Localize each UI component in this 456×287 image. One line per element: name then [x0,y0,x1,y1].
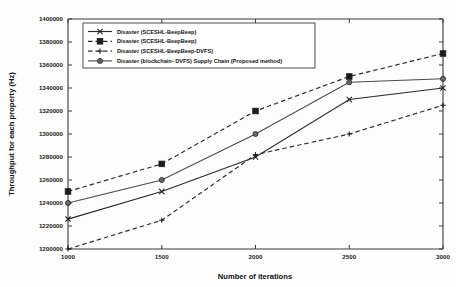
data-point-marker [441,76,446,81]
series-1 [65,51,446,195]
data-point-marker [98,58,103,63]
legend-item-label: Disaster (SCESHL-BeepBeep-DVFS) [117,48,213,54]
x-tick-label: 2500 [342,253,356,260]
throughput-line-chart: 1200000122000012400001260000128000013000… [0,0,456,287]
y-tick-label: 1400000 [39,15,64,22]
data-point-marker [253,132,258,137]
y-tick-label: 1320000 [39,107,64,114]
series-3 [66,76,446,205]
y-tick-label: 1260000 [39,176,64,183]
data-point-marker [253,108,259,114]
series-layer [65,51,446,252]
data-point-marker [159,178,164,183]
y-tick-label: 1340000 [39,84,64,91]
data-point-marker [97,39,103,45]
y-tick-label: 1380000 [39,38,64,45]
y-tick-label: 1300000 [39,130,64,137]
data-point-marker [65,189,71,195]
series-line [68,79,443,203]
legend-item-label: Disaster (SCESHL-BeepBeep) [117,38,196,44]
y-tick-label: 1360000 [39,61,64,68]
data-point-marker [440,51,446,57]
y-tick-label: 1280000 [39,153,64,160]
data-point-marker [159,161,165,167]
data-point-marker [346,74,352,80]
y-tick-label: 1200000 [39,245,64,252]
x-tick-label: 2000 [249,253,263,260]
chart-figure: 1200000122000012400001260000128000013000… [0,0,456,287]
y-tick-label: 1240000 [39,199,64,206]
x-axis-label: Number of iterations [218,272,292,281]
legend-item-label: Disaster (SCESHL-BeepBeep) [117,29,196,35]
y-tick-label: 1220000 [39,222,64,229]
y-axis-label: Throughput for each property (Hz) [7,72,16,196]
x-tick-label: 1500 [155,253,169,260]
data-point-marker [347,80,352,85]
data-point-marker [66,201,71,206]
x-tick-label: 3000 [436,253,450,260]
legend-item-label: Disaster (blockchain- DVFS) Supply Chain… [117,58,282,64]
series-line [68,105,443,249]
x-tick-label: 1000 [61,253,75,260]
series-2 [65,103,445,252]
chart-legend: Disaster (SCESHL-BeepBeep)Disaster (SCES… [83,23,315,68]
legend-item-3[interactable]: Disaster (blockchain- DVFS) Supply Chain… [88,58,282,64]
